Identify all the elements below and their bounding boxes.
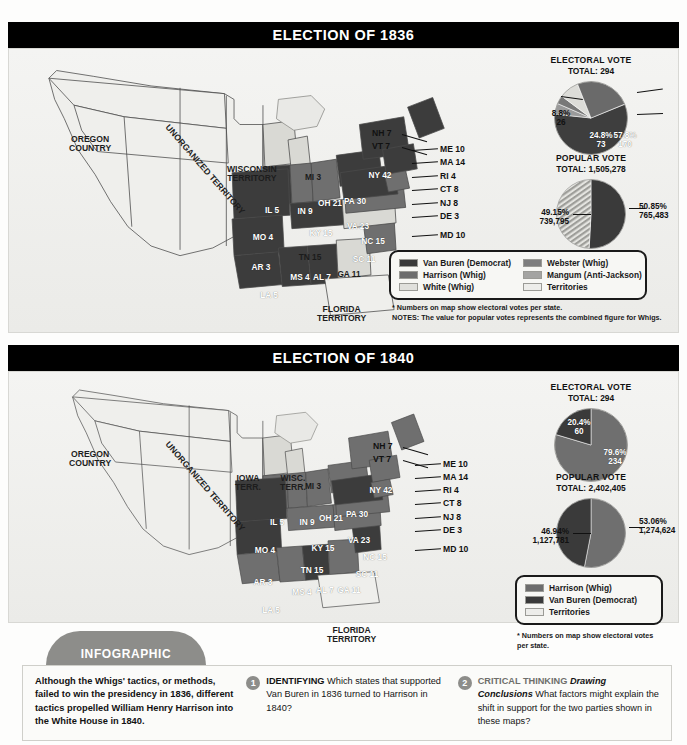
footnote-line: * Numbers on map show electoral votes pe… (392, 303, 682, 313)
legend-grid: Van Buren (Democrat)Webster (Whig)Harris… (399, 258, 637, 292)
map-region (237, 551, 280, 584)
map-region (277, 546, 306, 582)
territory-label: FLORIDA TERRITORY (317, 305, 366, 324)
section-title-1836-text: ELECTION OF 1836 (273, 27, 415, 43)
question-1-number: 1 (246, 676, 260, 690)
popular-vote-heading: POPULAR VOTE (501, 472, 681, 482)
footnote-line: * Numbers on map show electoral votes (517, 631, 667, 641)
question-2-caption: CRITICAL THINKING (478, 676, 568, 686)
question-2-column: 2 CRITICAL THINKING Drawing Conclusions … (458, 675, 659, 731)
question-2[interactable]: 2 CRITICAL THINKING Drawing Conclusions … (458, 675, 659, 728)
map-region (234, 252, 282, 289)
infographic-tab: INFOGRAPHIC (46, 631, 206, 665)
map-region (318, 572, 380, 608)
map-region (311, 159, 340, 201)
legend-item: Mangum (Anti-Jackson) (523, 270, 642, 280)
territory-label: WISC. TERR. (280, 474, 306, 493)
electoral-vote-heading: ELECTORAL VOTE (501, 55, 681, 65)
us-map (27, 378, 497, 618)
electoral-vote-total: TOTAL: 294 (501, 66, 681, 76)
footnotes-e1840: * Numbers on map show electoral votesper… (517, 631, 667, 650)
legend-swatch (399, 259, 418, 267)
panel-1840: OREGON COUNTRYUNORGANIZED TERRITORYIOWA … (8, 371, 679, 623)
map-region (278, 246, 311, 287)
popular-vote-total: TOTAL: 2,402,405 (501, 483, 681, 493)
legend-swatch (525, 596, 544, 604)
pie-slice (589, 179, 625, 248)
popular-right-label: 53.06% 1,274,624 (639, 517, 687, 535)
map-region (369, 455, 400, 482)
electoral-slice-label: 79.6% 234 (603, 448, 626, 466)
infographic-tab-label: INFOGRAPHIC (81, 647, 172, 661)
legend-swatch (525, 584, 544, 592)
map-region (383, 144, 418, 175)
territory-label: FLORIDA TERRITORY (327, 626, 376, 645)
infographic-lead-text: Although the Whigs' tactics, or methods,… (35, 675, 236, 729)
popular-pie-holder: 46.94% 1,127,78153.06% 1,274,624 (555, 497, 627, 569)
legend-label: Harrison (Whig) (423, 270, 486, 280)
legend-item: Van Buren (Democrat) (399, 258, 511, 268)
map-region (290, 163, 313, 204)
electoral-vote-heading: ELECTORAL VOTE (501, 382, 681, 392)
section-title-1840-text: ELECTION OF 1840 (273, 350, 415, 366)
legend-swatch (399, 271, 418, 279)
map-e1840: OREGON COUNTRYUNORGANIZED TERRITORYIOWA … (27, 378, 497, 618)
territory-label: IOWA TERR. (235, 474, 261, 493)
popular-leader (573, 533, 591, 534)
slice-leader (637, 113, 663, 115)
electoral-pie-holder: 57.8% 17024.8% 738.8% 263.7% 114.8% 14 (553, 80, 629, 156)
electoral-slice-label: 57.8% 170 (613, 131, 636, 149)
section-title-1840: ELECTION OF 1840 (8, 345, 679, 371)
question-1-caption: IDENTIFYING (266, 676, 324, 686)
footnotes-e1836: * Numbers on map show electoral votes pe… (392, 303, 682, 322)
electoral-slice-label: 8.8% 26 (552, 109, 571, 127)
legend-item: Territories (523, 282, 642, 292)
map-region (232, 215, 284, 256)
legend-label: Webster (Whig) (547, 258, 608, 268)
infographic-box: Although the Whigs' tactics, or methods,… (22, 665, 672, 741)
footnote-line: NOTES: The value for popular votes repre… (392, 313, 682, 323)
legend-label: Harrison (Whig) (549, 583, 612, 593)
legend-grid: Harrison (Whig)Van Buren (Democrat)Terri… (525, 583, 653, 617)
popular-leader (629, 208, 645, 209)
infographic-page: ELECTION OF 1836 OREGON COUNTRYUNORGANIZ… (0, 0, 687, 745)
map-region (290, 200, 344, 229)
electoral-vote-total: TOTAL: 294 (501, 393, 681, 403)
legend-swatch (523, 259, 542, 267)
question-1-column: 1 IDENTIFYING Which states that supporte… (246, 675, 447, 731)
territory-label: WISCONSIN TERRITORY (227, 165, 277, 184)
question-2-text: CRITICAL THINKING Drawing Conclusions Wh… (478, 675, 659, 728)
popular-right-label: 50.85% 765,483 (639, 202, 687, 220)
popular-left-label: 46.94% 1,127,781 (507, 527, 569, 545)
legend-item: Harrison (Whig) (399, 270, 511, 280)
legend-label: Territories (547, 282, 588, 292)
legend-label: Mangum (Anti-Jackson) (547, 270, 642, 280)
popular-pie-holder: 49.15% 739,79550.85% 765,483 (555, 178, 627, 250)
legend-label: Van Buren (Democrat) (549, 595, 637, 605)
popular-vote-heading: POPULAR VOTE (501, 153, 681, 163)
electoral-slice-label: 24.8% 73 (589, 131, 612, 149)
legend-swatch (523, 283, 542, 291)
map-region (408, 98, 445, 139)
infographic-lead-column: Although the Whigs' tactics, or methods,… (35, 675, 236, 731)
slice-leader (637, 88, 663, 93)
popular-left-label: 49.15% 739,795 (507, 208, 569, 226)
legend-label: White (Whig) (423, 282, 474, 292)
map-region (287, 505, 335, 531)
electoral-vote-chart-e1836: ELECTORAL VOTETOTAL: 29457.8% 17024.8% 7… (501, 55, 681, 156)
panel-1836: OREGON COUNTRYUNORGANIZED TERRITORYWISCO… (8, 48, 679, 333)
legend-label: Territories (549, 607, 590, 617)
popular-vote-total: TOTAL: 1,505,278 (501, 164, 681, 174)
legend-item: Territories (525, 607, 653, 617)
map-region (306, 469, 332, 507)
legend-swatch (523, 271, 542, 279)
legend-label: Van Buren (Democrat) (423, 258, 511, 268)
territory-label: OREGON COUNTRY (69, 450, 111, 469)
popular-leader (629, 527, 645, 528)
legend-swatch (399, 283, 418, 291)
footnote-line: per state. (517, 641, 667, 651)
map-region (371, 479, 393, 498)
legend-e1836: Van Buren (Democrat)Webster (Whig)Harris… (389, 250, 647, 300)
legend-e1840: Harrison (Whig)Van Buren (Democrat)Terri… (515, 575, 663, 625)
question-1[interactable]: 1 IDENTIFYING Which states that supporte… (246, 675, 447, 715)
